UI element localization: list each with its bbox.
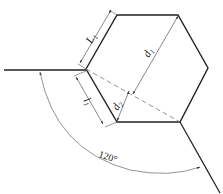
- dimension-d1: d1: [133, 16, 178, 94]
- dashed-diagonal: [86, 69, 180, 122]
- dimension-l1: l1: [74, 71, 117, 127]
- dimension-d2: d2: [109, 91, 129, 121]
- hexagon-outline: [86, 15, 208, 122]
- right-reference-line: [180, 122, 220, 193]
- dimension-L1: L1: [78, 10, 117, 69]
- svg-text:120°: 120°: [97, 149, 118, 165]
- hexagon-diagram: L1 l1 d1 d2 120: [0, 0, 223, 194]
- svg-text:d2: d2: [109, 98, 126, 113]
